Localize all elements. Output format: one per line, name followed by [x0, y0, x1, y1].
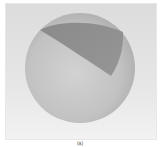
figure-caption: (a): [60, 140, 100, 147]
sphere-render: [0, 0, 161, 147]
